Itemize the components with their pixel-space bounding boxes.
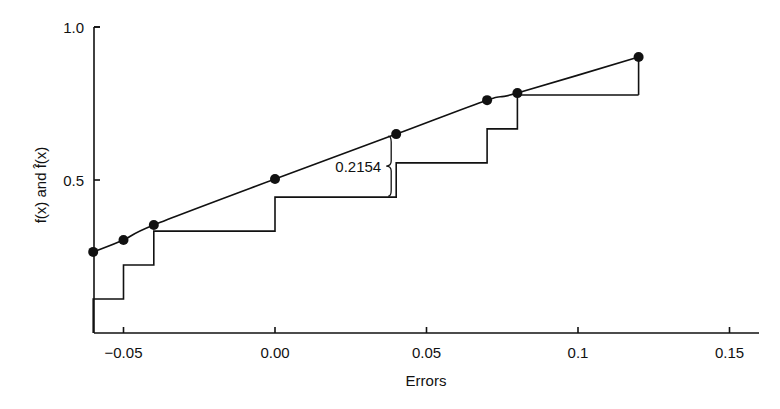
- data-point-marker: [634, 52, 644, 62]
- y-tick-label: 0.5: [63, 172, 84, 189]
- data-point-marker: [270, 174, 280, 184]
- plot-area: 0.2154: [88, 52, 643, 333]
- chart-canvas: −0.050.000.050.10.150.51.0 0.2154 Errors…: [0, 0, 780, 409]
- brace-annotation: [386, 136, 391, 196]
- data-point-marker: [119, 235, 129, 245]
- data-point-marker: [391, 129, 401, 139]
- data-point-marker: [512, 88, 522, 98]
- gap-annotation-label: 0.2154: [335, 158, 381, 175]
- y-tick-label: 1.0: [63, 19, 84, 36]
- x-tick-label: 0.05: [412, 344, 441, 361]
- axes: −0.050.000.050.10.150.51.0: [63, 19, 759, 361]
- x-tick-label: 0.00: [260, 344, 289, 361]
- data-point-marker: [482, 95, 492, 105]
- x-tick-label: −0.05: [105, 344, 143, 361]
- data-point-marker: [88, 247, 98, 257]
- x-axis-title: Errors: [406, 372, 447, 389]
- data-point-marker: [149, 220, 159, 230]
- x-tick-label: 0.1: [568, 344, 589, 361]
- x-tick-label: 0.15: [715, 344, 744, 361]
- y-axis-title: f(x) and f̂(x): [32, 147, 49, 224]
- fitted-cdf-curve: [93, 57, 638, 252]
- empirical-cdf-step: [93, 95, 638, 333]
